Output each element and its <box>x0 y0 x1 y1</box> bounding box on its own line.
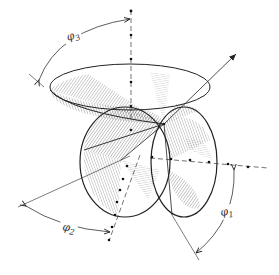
phi2-label: φ2 <box>58 220 78 238</box>
phi3-arc <box>39 19 130 80</box>
phi1-reference-line <box>172 215 199 260</box>
right-disc <box>151 107 217 217</box>
phi3-label: φ3 <box>62 26 84 46</box>
phi3-reference-tick <box>29 74 44 87</box>
euler-angle-diagram: φ3 φ2 φ1 <box>0 0 279 275</box>
phi1-label: φ1 <box>216 204 236 222</box>
left-disc <box>80 107 170 217</box>
